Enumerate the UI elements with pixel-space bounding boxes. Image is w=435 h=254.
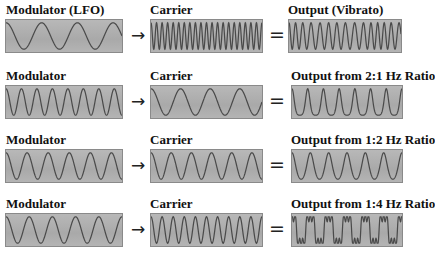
modulator-wave-line <box>6 153 122 179</box>
row-ratio-2-1: Modulator → Carrier = Output from 2:1 Hz… <box>0 69 431 131</box>
carrier-wave-svg <box>151 150 262 182</box>
output-wave-svg <box>292 214 402 246</box>
modulator-wave-svg <box>6 20 122 52</box>
output-wave-svg <box>292 86 402 118</box>
output-label: Output from 1:2 Hz Ratio <box>291 133 435 147</box>
modulator-label: Modulator <box>6 197 66 211</box>
arrow-icon: → <box>131 25 145 45</box>
equals-icon: = <box>269 89 285 111</box>
carrier-wave-line <box>151 89 262 115</box>
output-label: Output (Vibrato) <box>288 3 383 17</box>
modulator-wave-line <box>6 217 122 243</box>
modulator-waveform <box>5 149 123 183</box>
arrow-icon: → <box>131 91 145 111</box>
output-waveform <box>291 85 403 119</box>
row-lfo-vibrato: Modulator (LFO) → Carrier = Output (Vibr… <box>0 3 431 65</box>
modulator-wave-line <box>6 89 122 115</box>
modulator-label: Modulator <box>6 133 66 147</box>
equals-icon: = <box>269 217 285 239</box>
carrier-wave-line <box>151 153 262 179</box>
carrier-label: Carrier <box>150 197 193 211</box>
modulator-wave-svg <box>6 86 122 118</box>
output-wave-line <box>292 153 402 179</box>
carrier-label: Carrier <box>150 133 193 147</box>
output-waveform <box>288 19 402 53</box>
modulator-wave-svg <box>6 150 122 182</box>
equals-icon: = <box>269 23 285 45</box>
modulator-wave-svg <box>6 214 122 246</box>
carrier-wave-svg <box>151 86 262 118</box>
carrier-waveform <box>150 19 263 53</box>
modulator-waveform <box>5 19 123 53</box>
modulator-waveform <box>5 213 123 247</box>
equals-icon: = <box>269 153 285 175</box>
output-wave-line <box>289 23 401 49</box>
carrier-wave-svg <box>151 20 262 52</box>
modulator-label: Modulator <box>6 69 66 83</box>
modulator-label: Modulator (LFO) <box>6 3 104 17</box>
carrier-label: Carrier <box>150 3 193 17</box>
carrier-waveform <box>150 213 263 247</box>
row-ratio-1-2: Modulator → Carrier = Output from 1:2 Hz… <box>0 133 431 195</box>
output-wave-line <box>292 217 402 243</box>
output-label: Output from 1:4 Hz Ratio <box>291 197 435 211</box>
modulator-waveform <box>5 85 123 119</box>
arrow-icon: → <box>131 219 145 239</box>
output-wave-svg <box>289 20 401 52</box>
carrier-waveform <box>150 149 263 183</box>
output-wave-svg <box>292 150 402 182</box>
carrier-wave-svg <box>151 214 262 246</box>
modulator-wave-line <box>6 23 122 49</box>
output-waveform <box>291 213 403 247</box>
output-label: Output from 2:1 Hz Ratio <box>291 69 435 83</box>
output-waveform <box>291 149 403 183</box>
carrier-wave-line <box>151 23 262 49</box>
row-ratio-1-4: Modulator → Carrier = Output from 1:4 Hz… <box>0 197 431 254</box>
carrier-waveform <box>150 85 263 119</box>
output-wave-line <box>292 89 402 115</box>
arrow-icon: → <box>131 155 145 175</box>
carrier-wave-line <box>151 217 262 243</box>
carrier-label: Carrier <box>150 69 193 83</box>
